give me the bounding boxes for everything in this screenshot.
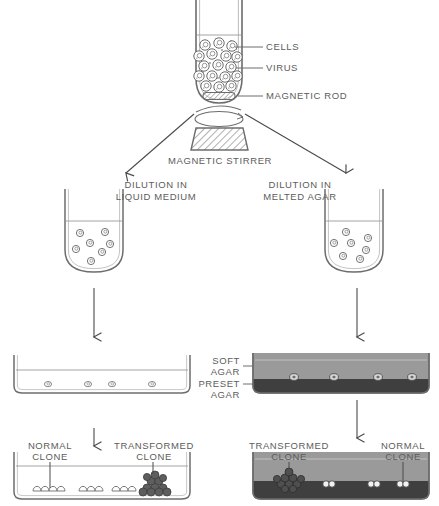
magnetic-rod [203,93,235,100]
label-magnetic-stirrer: MAGNETIC STIRRER [143,155,297,166]
label-dilution-agar-line1: DILUTION IN [252,179,348,190]
label-soft-agar-line1: SOFT [178,355,240,366]
left-upper-dish [14,355,190,393]
label-preset-agar-line2: AGAR [172,389,240,400]
right-upper-dish [243,353,429,393]
preset-agar-layer [253,379,429,393]
label-normal-clone-right-line2: CLONE [368,451,438,462]
label-cells: CELLS [266,41,299,52]
label-transformed-clone-right-line1: TRANSFORMED [242,440,336,451]
label-transformed-clone-left-line2: CLONE [107,451,201,462]
label-transformed-clone-left-line1: TRANSFORMED [107,440,201,451]
rotation-swirl-icon [195,106,243,127]
label-magnetic-rod: MAGNETIC ROD [266,90,347,101]
label-preset-agar-line1: PRESET [172,378,240,389]
label-dilution-liquid-line1: DILUTION IN [108,179,204,190]
top-tube-cells [194,38,242,92]
transformation-assay-diagram [0,0,439,506]
label-transformed-clone-right-line2: CLONE [242,451,336,462]
label-dilution-liquid-line2: LIQUID MEDIUM [101,191,211,202]
top-tube [194,0,242,103]
label-normal-clone-left-line2: CLONE [14,451,86,462]
label-soft-agar-line2: AGAR [178,366,240,377]
label-dilution-agar-line2: MELTED AGAR [248,191,352,202]
label-normal-clone-left-line1: NORMAL [14,440,86,451]
label-virus: VIRUS [266,62,298,73]
label-normal-clone-right-line1: NORMAL [368,440,438,451]
magnetic-stirrer [191,128,248,150]
